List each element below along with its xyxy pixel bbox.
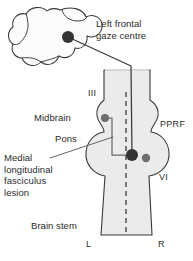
figure-canvas: Left frontal gaze centre Midbrain Pons M…: [0, 0, 193, 261]
label-cranial-nerve-three: III: [88, 88, 96, 100]
label-mlf-lesion: Medial longitudinal fasciculus lesion: [4, 152, 53, 198]
label-pons: Pons: [55, 133, 77, 145]
cerebral-cortex-group: [9, 7, 103, 65]
label-left-frontal-gaze-centre: Left frontal gaze centre: [96, 18, 146, 41]
label-brain-stem: Brain stem: [31, 220, 77, 232]
label-pprf: PPRF: [160, 119, 185, 131]
pprf-lesion-node: [126, 149, 138, 161]
oculomotor-nucleus-node: [101, 114, 109, 122]
label-midbrain: Midbrain: [34, 112, 71, 124]
frontal-gaze-centre-node: [62, 31, 74, 43]
abducens-nucleus-node: [142, 154, 150, 162]
cortex-outline: [9, 7, 103, 65]
label-right-side: R: [158, 239, 165, 251]
label-left-side: L: [86, 239, 91, 251]
label-cranial-nerve-six: VI: [159, 172, 168, 184]
